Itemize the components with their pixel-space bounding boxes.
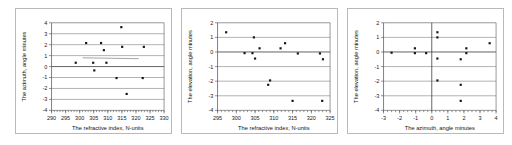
- y-axis-tick-label: 2: [210, 20, 213, 26]
- x-axis-tick-label: -2: [397, 115, 402, 121]
- data-point-marker: [103, 49, 105, 51]
- scatter-plot-1: 290295300305310315320325330-4-3-2-101234…: [16, 9, 171, 133]
- y-axis-tick-label: 2: [376, 20, 379, 26]
- y-axis-tick-label: -2: [374, 78, 379, 84]
- data-point-marker: [465, 52, 467, 54]
- data-point-marker: [436, 36, 438, 38]
- data-point-marker: [267, 84, 269, 86]
- data-point-marker: [253, 36, 255, 38]
- y-axis-tick-label: -2: [208, 78, 213, 84]
- y-axis-tick-label: 1: [376, 34, 379, 40]
- y-axis-tick-label: -1: [208, 64, 213, 70]
- chart-panel-2: 295300305310315320325-4-3-2-1012The refr…: [181, 8, 338, 134]
- scatter-plot-2: 295300305310315320325-4-3-2-1012The refr…: [182, 9, 337, 133]
- y-axis-tick-label: -1: [374, 64, 379, 70]
- x-axis-tick-label: 305: [250, 115, 259, 121]
- x-axis-tick-label: 300: [232, 115, 241, 121]
- x-axis-tick-label: 315: [288, 115, 297, 121]
- data-point-marker: [414, 52, 416, 54]
- x-axis-tick-label: 295: [61, 115, 70, 121]
- x-axis-tick-label: 4: [495, 115, 498, 121]
- x-axis-tick-label: 320: [131, 115, 140, 121]
- x-axis-tick-label: 1: [446, 115, 449, 121]
- chart-panel-3: -3-2-101234-4-3-2-1012The azimuth, angle…: [347, 8, 504, 134]
- data-point-marker: [92, 62, 94, 64]
- x-axis-tick-label: 330: [159, 115, 168, 121]
- data-point-marker: [258, 47, 260, 49]
- x-axis-tick-label: -3: [381, 115, 386, 121]
- x-axis-tick-label: 320: [307, 115, 316, 121]
- data-point-marker: [142, 77, 144, 79]
- y-axis-title: The elevation, angle minutes: [187, 30, 193, 103]
- y-axis-tick-label: -3: [374, 93, 379, 99]
- trend-line: [82, 58, 138, 59]
- data-point-marker: [319, 52, 321, 54]
- y-axis-tick-label: 0: [376, 49, 379, 55]
- x-axis-tick-label: 305: [89, 115, 98, 121]
- data-point-marker: [254, 57, 256, 59]
- data-point-marker: [436, 57, 438, 59]
- data-point-marker: [489, 42, 491, 44]
- y-axis-tick-label: -4: [208, 107, 213, 113]
- y-axis-tick-label: -4: [374, 107, 379, 113]
- y-axis-title: The elevation, angle minutes: [353, 30, 359, 103]
- figure-sheet: 290295300305310315320325330-4-3-2-101234…: [0, 0, 512, 145]
- x-axis-title: The refractive index, N-units: [238, 125, 310, 131]
- y-axis-tick-label: -1: [42, 74, 47, 80]
- x-axis-tick-label: 290: [47, 115, 56, 121]
- data-point-marker: [321, 100, 323, 102]
- x-axis-tick-label: 0: [430, 115, 433, 121]
- data-point-marker: [143, 46, 145, 48]
- data-point-marker: [297, 52, 299, 54]
- data-point-marker: [225, 31, 227, 33]
- x-axis-tick-label: 310: [103, 115, 112, 121]
- y-axis-tick-label: 0: [44, 64, 47, 70]
- data-point-marker: [100, 42, 102, 44]
- data-point-marker: [436, 79, 438, 81]
- y-axis-tick-label: 1: [44, 53, 47, 59]
- x-axis-tick-label: 325: [325, 115, 334, 121]
- data-point-marker: [269, 79, 271, 81]
- y-axis-tick-label: 0: [210, 49, 213, 55]
- y-axis-tick-label: 3: [44, 31, 47, 37]
- y-axis-title: The azimuth, angle minutes: [21, 31, 27, 101]
- data-point-marker: [425, 52, 427, 54]
- chart-panel-1: 290295300305310315320325330-4-3-2-101234…: [15, 8, 172, 134]
- data-point-marker: [322, 58, 324, 60]
- x-axis-tick-label: 315: [117, 115, 126, 121]
- data-point-marker: [460, 100, 462, 102]
- y-axis-tick-label: -3: [42, 96, 47, 102]
- data-point-marker: [121, 46, 123, 48]
- data-point-marker: [243, 52, 245, 54]
- data-point-marker: [85, 42, 87, 44]
- data-point-marker: [465, 47, 467, 49]
- x-axis-tick-label: 2: [462, 115, 465, 121]
- data-point-marker: [251, 52, 253, 54]
- data-point-marker: [75, 62, 77, 64]
- data-point-marker: [279, 47, 281, 49]
- y-axis-tick-label: 1: [210, 34, 213, 40]
- x-axis-tick-label: -1: [413, 115, 418, 121]
- y-axis-tick-label: -3: [208, 93, 213, 99]
- y-axis-tick-label: 4: [44, 20, 47, 26]
- data-point-marker: [115, 77, 117, 79]
- x-axis-title: The refractive index, N-units: [72, 125, 144, 131]
- data-point-marker: [291, 100, 293, 102]
- x-axis-tick-label: 310: [269, 115, 278, 121]
- x-axis-tick-label: 3: [478, 115, 481, 121]
- y-axis-tick-label: -4: [42, 107, 47, 113]
- x-axis-tick-label: 295: [213, 115, 222, 121]
- data-point-marker: [460, 84, 462, 86]
- data-point-marker: [414, 47, 416, 49]
- x-axis-tick-label: 300: [75, 115, 84, 121]
- data-point-marker: [284, 42, 286, 44]
- x-axis-title: The azimuth, angle minutes: [405, 125, 475, 131]
- data-point-marker: [105, 62, 107, 64]
- data-point-marker: [436, 31, 438, 33]
- y-axis-tick-label: -2: [42, 85, 47, 91]
- y-axis-tick-label: 2: [44, 42, 47, 48]
- data-point-marker: [93, 69, 95, 71]
- data-point-marker: [390, 52, 392, 54]
- x-axis-tick-label: 325: [145, 115, 154, 121]
- scatter-plot-3: -3-2-101234-4-3-2-1012The azimuth, angle…: [348, 9, 503, 133]
